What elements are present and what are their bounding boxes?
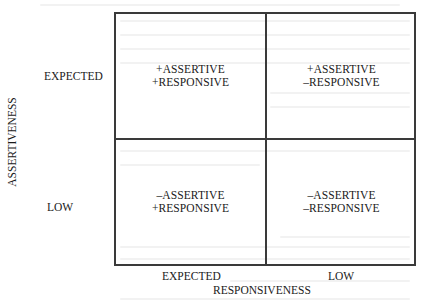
x-axis-title: RESPONSIVENESS bbox=[213, 284, 311, 297]
quadrant-matrix: +ASSERTIVE +RESPONSIVE +ASSERTIVE –RESPO… bbox=[114, 12, 416, 266]
quadrant-line-2: –RESPONSIVE bbox=[303, 76, 380, 89]
quadrant-top-right: +ASSERTIVE –RESPONSIVE bbox=[267, 14, 416, 138]
quadrant-top-left: +ASSERTIVE +RESPONSIVE bbox=[116, 14, 265, 138]
quadrant-line-2: +RESPONSIVE bbox=[152, 202, 229, 215]
quadrant-line-1: +ASSERTIVE bbox=[307, 63, 376, 76]
quadrant-line-1: –ASSERTIVE bbox=[156, 189, 224, 202]
quadrant-bottom-right: –ASSERTIVE –RESPONSIVE bbox=[267, 140, 416, 264]
x-axis-level-expected: EXPECTED bbox=[162, 270, 221, 283]
quadrant-line-1: +ASSERTIVE bbox=[156, 63, 225, 76]
y-axis-level-low: LOW bbox=[47, 201, 73, 214]
y-axis-title: ASSERTIVENESS bbox=[6, 97, 19, 186]
quadrant-line-2: +RESPONSIVE bbox=[152, 76, 229, 89]
quadrant-line-1: –ASSERTIVE bbox=[307, 189, 375, 202]
x-axis-level-low: LOW bbox=[328, 270, 354, 283]
quadrant-line-2: –RESPONSIVE bbox=[303, 202, 380, 215]
quadrant-bottom-left: –ASSERTIVE +RESPONSIVE bbox=[116, 140, 265, 264]
y-axis-level-expected: EXPECTED bbox=[44, 70, 103, 83]
